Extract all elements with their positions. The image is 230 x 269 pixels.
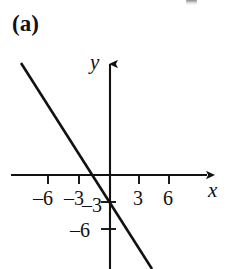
coordinate-plot [0,0,230,269]
x-tick-label-3: 3 [133,188,143,208]
x-tick-label-neg3: –3 [64,188,84,208]
x-axis-label: x [208,180,217,201]
y-tick-label-neg6: –6 [70,220,90,240]
x-tick-label-6: 6 [163,188,173,208]
x-tick-label-neg6: –6 [33,188,53,208]
figure-root: (a) y x –6 –3 3 6 –3 –6 [0,0,230,269]
y-axis-label: y [90,52,99,73]
y-tick-label-neg3: –3 [82,195,102,215]
